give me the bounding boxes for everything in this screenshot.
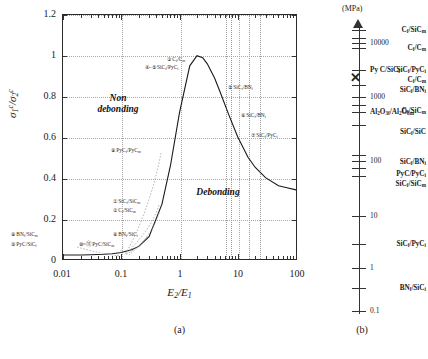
- point-label-1: ① SiCf/SiCm: [113, 198, 140, 206]
- scale-left-label-8: SiCf/BNi: [326, 158, 428, 167]
- ytick-label-0: 0: [22, 255, 56, 265]
- scale-left-label-10: SiCf/SiCm: [326, 180, 428, 189]
- point-label-8: ⑧ BNf/SiCm: [11, 231, 38, 239]
- panel-b-scale: (MPa) 10000 1000 100 10 1 0.1 ✕ Cf/SiCm: [312, 0, 428, 359]
- xtick-label-0.1: 0.1: [101, 269, 141, 279]
- y-axis-label: σ1c/σ2c: [6, 28, 20, 118]
- scale-value-1: 1: [370, 264, 374, 272]
- point-label-6: ⑥ SiCf/BNi: [241, 112, 266, 120]
- xtick-label-1: 1: [160, 269, 200, 279]
- xtick-label-0.01: 0.01: [42, 269, 82, 279]
- scale-left-label-2: Cf/Cm: [326, 44, 428, 53]
- scale-left-label-4: Cf/Cm: [326, 76, 428, 85]
- xtick-label-100: 100: [277, 269, 317, 279]
- entry-tick-10: [352, 168, 366, 169]
- point-label-7: ⑦ SiCf/PyCi: [251, 132, 278, 140]
- scale-left-label-7: SiCf/SiC: [326, 128, 428, 137]
- entry-tick-6: [352, 105, 366, 106]
- xtick-minor-top-100: [296, 15, 297, 20]
- scale-left-label-11: SiCf/PyCi: [326, 240, 428, 249]
- point-label-2: ② Cf/SiCm: [113, 207, 136, 215]
- point-label-6b: ⑥ BNf/SiCi: [113, 231, 138, 239]
- scale-left-label-12: BNf/SiCi: [326, 284, 428, 293]
- point-label-3: ③ Cf/Cm: [167, 56, 185, 64]
- panel-a-chart: Non debonding Debonding ③ Cf/Cm ④–⑤ SiCf…: [0, 0, 312, 359]
- scale-value-0.1: 0.1: [370, 307, 379, 315]
- scale-tick-0.1: [352, 311, 366, 312]
- unit-label: (MPa): [342, 4, 362, 13]
- point-label-10-11: ⑩~⑪ PyC/SiCm: [79, 241, 114, 249]
- point-label-4: ④–⑤ SiCf/PyCi: [145, 64, 178, 72]
- region-label-debonding: Debonding: [183, 187, 253, 198]
- ytick-label-1.2: 1.2: [22, 9, 56, 19]
- scale-left-label-1: Cf/SiCm: [326, 26, 428, 35]
- figure-root: Non debonding Debonding ③ Cf/Cm ④–⑤ SiCf…: [0, 0, 428, 359]
- scale-left-label-9: PyC/PyCi: [326, 170, 428, 179]
- ytick-label-0.2: 0.2: [22, 214, 56, 224]
- entry-tick-9: [352, 155, 366, 156]
- region-label-non-debonding: Non debonding: [83, 93, 153, 115]
- scale-tick-1: [352, 268, 366, 269]
- xtick-label-10: 10: [218, 269, 258, 279]
- entry-tick-2: [352, 38, 366, 39]
- point-label-9: ⑨ PyC/SiCf: [11, 241, 37, 249]
- point-label-5: ⑤ SiCf/BNi: [228, 84, 253, 92]
- ytick-label-0.6: 0.6: [22, 132, 56, 142]
- ytick-label-0.8: 0.8: [22, 91, 56, 101]
- ytick-label-0.4: 0.4: [22, 173, 56, 183]
- x-axis-label: E2/E1: [62, 286, 297, 300]
- point-label-12: ⑧ PyCf/PyCm: [111, 147, 141, 155]
- plot-area: Non debonding Debonding ③ Cf/Cm ④–⑤ SiCf…: [62, 14, 297, 260]
- scale-right-label-1: Py C/SiCf: [370, 66, 400, 75]
- scale-left-label-5: SiCf/BNi: [326, 86, 428, 95]
- scale-tick-1000: [352, 97, 366, 98]
- xtick-minor-bot-100: [296, 254, 297, 259]
- scale-right-label-2: Al2O3f/Al2O3m: [370, 108, 414, 117]
- panel-a-caption: (a): [62, 324, 297, 335]
- ytick-label-1.0: 1: [22, 50, 56, 60]
- entry-tick-8: [352, 125, 366, 126]
- scale-value-10: 10: [370, 212, 378, 220]
- scale-tick-10: [352, 216, 366, 217]
- panel-b-caption: (b): [312, 324, 412, 335]
